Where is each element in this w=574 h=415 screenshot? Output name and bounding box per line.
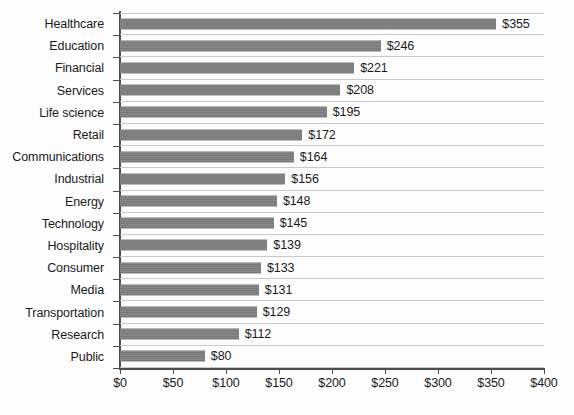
x-axis-tick-label: $350	[477, 376, 504, 390]
x-axis-tick	[173, 368, 174, 374]
category-label: Services	[0, 80, 112, 102]
bar-value-label: $221	[360, 61, 387, 75]
bar-value-label: $355	[502, 17, 529, 31]
bar-value-label: $172	[308, 128, 335, 142]
bar	[120, 129, 302, 140]
x-axis-tick-label: $200	[318, 376, 345, 390]
bar	[120, 19, 496, 30]
bar-value-label: $112	[245, 327, 271, 341]
category-label: Communications	[0, 146, 112, 168]
category-label: Retail	[0, 124, 112, 146]
bar-row: $133	[120, 257, 544, 279]
x-axis-tick-label: $250	[371, 376, 398, 390]
bar	[120, 196, 277, 207]
bar	[120, 40, 381, 51]
bar-row: $80	[120, 346, 544, 368]
bar-row: $355	[120, 13, 544, 35]
bar-rows: $355$246$221$208$195$172$164$156$148$145…	[120, 13, 544, 368]
x-axis-tick-labels: $0$50$100$150$200$250$300$350$400	[0, 376, 574, 396]
bar	[120, 107, 327, 118]
bar	[120, 284, 259, 295]
bar-value-label: $208	[346, 83, 373, 97]
category-label: Research	[0, 324, 112, 346]
category-label: Technology	[0, 213, 112, 235]
bar	[120, 329, 239, 340]
x-axis-tick	[544, 368, 545, 374]
category-label: Transportation	[0, 301, 112, 323]
bar	[120, 173, 285, 184]
x-axis-tick	[438, 368, 439, 374]
bar-row: $221	[120, 57, 544, 79]
category-label: Healthcare	[0, 13, 112, 35]
category-label: Consumer	[0, 257, 112, 279]
x-axis-tick-label: $100	[212, 376, 239, 390]
category-label: Financial	[0, 57, 112, 79]
bar-value-label: $156	[291, 172, 318, 186]
bar-row: $148	[120, 191, 544, 213]
bar-value-label: $246	[387, 39, 414, 53]
bar-value-label: $148	[283, 194, 310, 208]
x-axis-tick-label: $150	[265, 376, 292, 390]
bar-row: $208	[120, 80, 544, 102]
x-axis-tick	[226, 368, 227, 374]
bar-row: $172	[120, 124, 544, 146]
bar-chart: HealthcareEducationFinancialServicesLife…	[0, 0, 574, 415]
x-axis-ticks	[0, 368, 574, 376]
bar-row: $129	[120, 301, 544, 323]
category-label: Industrial	[0, 168, 112, 190]
x-axis-tick-label: $50	[163, 376, 184, 390]
x-axis-tick-label: $400	[530, 376, 557, 390]
bar	[120, 351, 205, 362]
category-label: Media	[0, 279, 112, 301]
bar-value-label: $133	[267, 261, 294, 275]
category-label: Life science	[0, 102, 112, 124]
bar-value-label: $195	[333, 105, 360, 119]
x-axis-tick	[279, 368, 280, 374]
bar	[120, 262, 261, 273]
bar-value-label: $145	[280, 216, 307, 230]
bar-value-label: $139	[273, 238, 300, 252]
bar	[120, 307, 257, 318]
bar-value-label: $164	[300, 150, 327, 164]
category-label: Public	[0, 346, 112, 368]
x-axis-tick	[491, 368, 492, 374]
bar	[120, 218, 274, 229]
bar-row: $246	[120, 35, 544, 57]
bar	[120, 62, 354, 73]
bar-row: $164	[120, 146, 544, 168]
bar	[120, 85, 340, 96]
bar	[120, 151, 294, 162]
plot-area: $355$246$221$208$195$172$164$156$148$145…	[120, 13, 544, 368]
x-axis-tick	[120, 368, 121, 374]
bar-row: $131	[120, 279, 544, 301]
bar-row: $145	[120, 213, 544, 235]
bar-row: $112	[120, 324, 544, 346]
bar-row: $195	[120, 102, 544, 124]
bar-row: $156	[120, 168, 544, 190]
category-axis-labels: HealthcareEducationFinancialServicesLife…	[0, 13, 112, 368]
x-axis-tick	[385, 368, 386, 374]
bar	[120, 240, 267, 251]
category-label: Hospitality	[0, 235, 112, 257]
bar-value-label: $129	[263, 305, 290, 319]
bar-row: $139	[120, 235, 544, 257]
category-label: Energy	[0, 191, 112, 213]
category-label: Education	[0, 35, 112, 57]
x-axis-tick	[332, 368, 333, 374]
x-axis-tick-label: $0	[113, 376, 127, 390]
x-axis-tick-label: $300	[424, 376, 451, 390]
bar-value-label: $131	[265, 283, 292, 297]
bar-value-label: $80	[211, 349, 232, 363]
